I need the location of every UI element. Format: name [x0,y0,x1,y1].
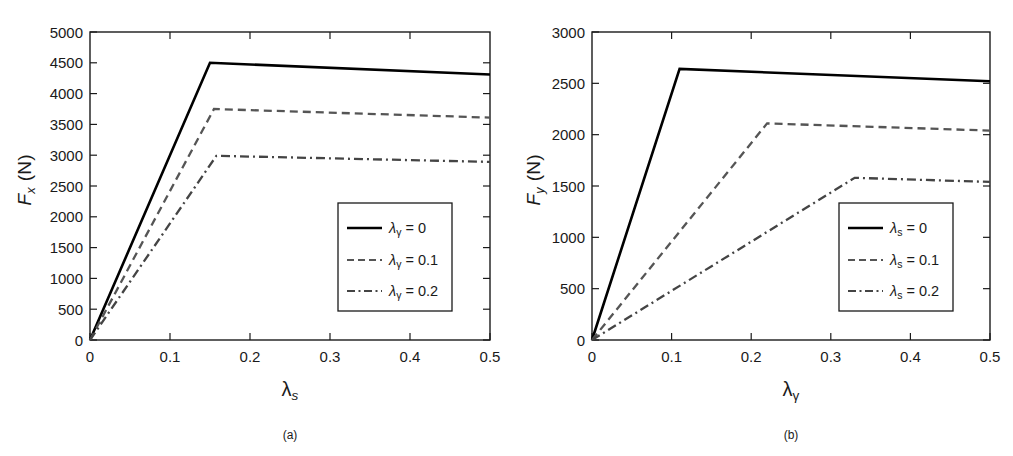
panel-a-x-axis-symbol: λ [282,378,292,400]
y-tick-label: 4500 [50,54,83,71]
y-tick-label: 1000 [50,270,83,287]
y-tick-label: 2500 [50,178,83,195]
figure-container: Fx (N) [0,0,1013,456]
x-tick-label: 0.4 [400,348,421,365]
x-tick-label: 0.2 [741,348,762,365]
x-tick-label: 0.4 [900,348,921,365]
y-tick-label: 500 [58,301,83,318]
panel-a-y-tick-labels: 0 500 1000 1500 2000 2500 3000 3500 4000… [50,24,83,349]
panel-a-legend-label-1: λγ = 0.1 [388,252,438,270]
x-tick-label: 0.2 [240,348,261,365]
y-tick-label: 4000 [50,85,83,102]
y-tick-label: 0 [75,332,83,349]
y-tick-label: 1500 [50,239,83,256]
panel-a-x-axis-label: λs [90,378,490,403]
panel-b-x-axis-symbol: λ [783,378,793,400]
panel-a-x-axis-subscript: s [292,388,299,403]
x-tick-label: 0.5 [980,348,1001,365]
panel-b: Fy (N) [503,0,1013,456]
panel-a-legend-label-2: λγ = 0.2 [388,283,438,301]
y-tick-label: 5000 [50,24,83,41]
panel-b-x-tick-labels: 0 0.1 0.2 0.3 0.4 0.5 [588,348,1001,365]
y-tick-label: 2000 [552,126,585,143]
x-tick-label: 0.3 [320,348,341,365]
panel-b-legend: λs = 0 λs = 0.1 λs = 0.2 [839,203,953,311]
panel-a-x-tick-labels: 0 0.1 0.2 0.3 0.4 0.5 [86,348,501,365]
panel-b-legend-label-2: λs = 0.2 [889,283,939,301]
y-tick-label: 1500 [552,178,585,195]
panel-b-legend-label-0: λs = 0 [889,220,927,238]
panel-a-legend: λγ = 0 λγ = 0.1 λγ = 0.2 [338,203,452,311]
panel-b-x-axis-subscript: γ [793,388,800,403]
x-tick-label: 0.1 [661,348,682,365]
x-tick-label: 0.3 [820,348,841,365]
y-tick-label: 500 [560,280,585,297]
y-tick-label: 2000 [50,208,83,225]
y-tick-label: 3000 [552,24,585,41]
y-tick-label: 1000 [552,229,585,246]
panel-b-y-tick-labels: 0 500 1000 1500 2000 2500 3000 [552,24,585,349]
x-tick-label: 0 [86,348,94,365]
panel-a: Fx (N) [0,0,510,456]
y-tick-label: 2500 [552,75,585,92]
panel-a-caption: (a) [90,428,490,442]
y-tick-label: 3000 [50,147,83,164]
panel-b-legend-label-1: λs = 0.1 [889,252,939,270]
panel-a-legend-label-0: λγ = 0 [388,220,426,238]
y-tick-label: 3500 [50,116,83,133]
panel-b-x-axis-label: λγ [592,378,990,403]
y-tick-label: 0 [577,332,585,349]
panel-b-caption: (b) [592,428,990,442]
x-tick-label: 0 [588,348,596,365]
x-tick-label: 0.1 [160,348,181,365]
x-tick-label: 0.5 [480,348,501,365]
